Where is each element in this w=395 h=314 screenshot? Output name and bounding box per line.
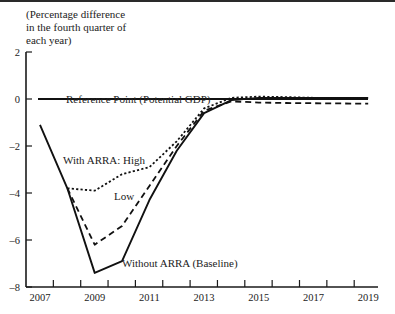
annotation-reference: Reference Point (Potential GDP) — [66, 93, 211, 106]
annotation-low: Low — [114, 190, 134, 202]
x-tick-label: 2019 — [358, 292, 379, 303]
x-tick-label: 2015 — [248, 292, 269, 303]
series-lines — [38, 97, 368, 273]
x-tick-label: 2011 — [139, 292, 160, 303]
line-chart: 20–2–4–6–82007200920112013201520172019 R… — [0, 0, 395, 314]
y-tick-label: –4 — [9, 188, 21, 199]
y-tick-label: –6 — [9, 235, 21, 246]
x-tick-label: 2009 — [84, 292, 105, 303]
y-tick-label: –2 — [9, 141, 21, 152]
x-tick-label: 2013 — [194, 292, 215, 303]
annotation-baseline: Without ARRA (Baseline) — [122, 257, 238, 270]
series-line-with-arra-low — [67, 101, 368, 244]
series-line-with-arra-high — [67, 97, 368, 191]
y-tick-label: 0 — [15, 94, 20, 105]
x-tick-label: 2017 — [303, 292, 324, 303]
y-tick-label: –8 — [9, 282, 21, 293]
x-tick-label: 2007 — [30, 292, 51, 303]
annotation-high: With ARRA: High — [63, 154, 146, 166]
y-tick-label: 2 — [15, 47, 20, 58]
series-line-without-arra-baseline — [40, 98, 368, 273]
